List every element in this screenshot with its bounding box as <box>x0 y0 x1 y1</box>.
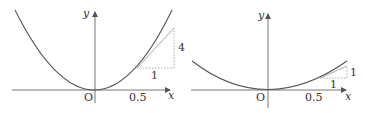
x-axis-label: x <box>345 90 352 103</box>
x-axis-label: x <box>168 89 175 102</box>
y-axis-label: y <box>82 7 90 20</box>
parabola-curve <box>192 61 347 90</box>
parabola-curve <box>15 10 172 90</box>
right-panel: y x O 0.5 1 1 <box>191 9 357 108</box>
tick-label: 0.5 <box>129 91 147 104</box>
tangent-diagrams: y x O 0.5 1 4 y x O 0.5 1 1 <box>0 0 365 113</box>
origin-label: O <box>84 91 93 104</box>
tangent-line <box>137 28 174 68</box>
y-axis-label: y <box>257 9 265 22</box>
rise-label: 1 <box>350 66 357 79</box>
run-label: 1 <box>330 78 337 91</box>
run-label: 1 <box>151 69 158 82</box>
left-panel: y x O 0.5 1 4 <box>12 7 185 104</box>
tick-label: 0.5 <box>305 91 323 104</box>
tangent-line <box>320 66 347 78</box>
rise-label: 4 <box>178 41 185 54</box>
origin-label: O <box>256 91 265 104</box>
